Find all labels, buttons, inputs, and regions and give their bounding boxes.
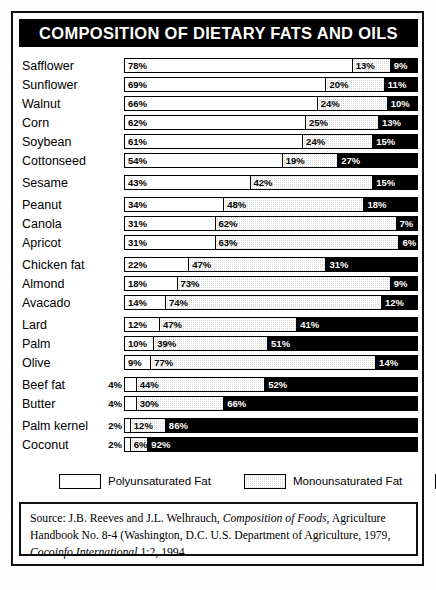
legend-swatch-mono (244, 474, 286, 489)
bar-segment-polyunsaturated: 10% (125, 337, 154, 350)
bar-segment-polyunsaturated: 61% (125, 135, 303, 148)
bar-segment-monounsaturated: 39% (154, 337, 268, 350)
stacked-bar: 61%24%15% (124, 134, 418, 149)
bar-segment-saturated: 10% (388, 97, 417, 110)
chart-row-label: Soybean (19, 135, 102, 149)
bar-segment-value: 12% (131, 421, 153, 431)
bar-segment-polyunsaturated: 34% (125, 198, 224, 211)
bar-segment-monounsaturated: 19% (283, 154, 338, 167)
bar-segment-polyunsaturated (125, 397, 137, 410)
chart-row: Peanut34%48%18% (19, 196, 418, 213)
chart-row-label: Cottonseed (19, 154, 102, 168)
chart-row: Coconut2%6%92% (19, 436, 418, 453)
bar-segment-value: 13% (379, 118, 401, 128)
chart-row: Apricot31%63%6% (19, 234, 418, 251)
bar-segment-value: 62% (216, 219, 238, 229)
chart-row-label: Olive (19, 356, 102, 370)
chart-row-label: Butter (19, 397, 102, 411)
bar-segment-value: 86% (166, 421, 188, 431)
chart-row-label: Palm kernel (19, 419, 102, 433)
bar-segment-value: 25% (306, 118, 328, 128)
chart-row: Sunflower69%20%11% (19, 76, 418, 93)
bar-segment-value: 51% (268, 339, 290, 349)
bar-segment-polyunsaturated: 31% (125, 217, 216, 230)
chart-row: Safflower78%13%9% (19, 57, 418, 74)
bar-segment-polyunsaturated (125, 378, 137, 391)
stacked-bar: 78%13%9% (124, 58, 418, 73)
bar-segment-saturated: 31% (326, 258, 417, 271)
stacked-bar: 34%48%18% (124, 197, 418, 212)
bar-segment-polyunsaturated: 18% (125, 277, 178, 290)
chart-row-label: Safflower (19, 59, 102, 73)
bar-segment-value: 47% (189, 260, 211, 270)
bar-segment-saturated: 27% (338, 154, 417, 167)
page-title: COMPOSITION OF DIETARY FATS AND OILS (39, 24, 398, 43)
bar-segment-value: 22% (125, 260, 147, 270)
bar-segment-value: 74% (166, 298, 188, 308)
chart-row: Corn62%25%13% (19, 114, 418, 131)
bar-segment-monounsaturated: 25% (306, 116, 379, 129)
bar-segment-value: 92% (148, 440, 170, 450)
chart-row: Butter4%30%66% (19, 395, 418, 412)
stacked-bar: 22%47%31% (124, 257, 418, 272)
bar-segment-monounsaturated: 73% (178, 277, 391, 290)
bar-segment-value: 15% (373, 178, 395, 188)
bar-segment-polyunsaturated: 12% (125, 318, 160, 331)
bar-segment-saturated: 9% (391, 277, 417, 290)
bar-segment-value: 12% (125, 320, 147, 330)
bar-segment-saturated: 52% (265, 378, 417, 391)
bar-segment-value: 20% (326, 80, 348, 90)
bar-segment-monounsaturated: 24% (318, 97, 388, 110)
bar-segment-value: 77% (151, 358, 173, 368)
bar-segment-value: 10% (388, 99, 410, 109)
bar-segment-saturated: 14% (376, 356, 417, 369)
bar-segment-polyunsaturated: 78% (125, 59, 353, 72)
bar-segment-monounsaturated: 24% (303, 135, 373, 148)
chart-row: Canola31%62%7% (19, 215, 418, 232)
bar-segment-monounsaturated: 77% (151, 356, 376, 369)
stacked-bar: 54%19%27% (124, 153, 418, 168)
bar-segment-value: 52% (265, 380, 287, 390)
bar-segment-value: 34% (125, 200, 147, 210)
bar-segment-value: 27% (338, 156, 360, 166)
bar-segment-monounsaturated: 47% (189, 258, 326, 271)
bar-segment-value: 39% (154, 339, 176, 349)
bar-segment-polyunsaturated: 22% (125, 258, 189, 271)
bar-segment-value: 30% (137, 399, 159, 409)
bar-segment-saturated: 6% (399, 236, 417, 249)
stacked-bar: 9%77%14% (124, 355, 418, 370)
bar-segment-value: 6% (131, 440, 148, 450)
stacked-bar: 30%66% (124, 396, 418, 411)
bar-segment-value: 61% (125, 137, 147, 147)
bar-segment-value: 18% (364, 200, 386, 210)
bar-segment-value: 41% (297, 320, 319, 330)
bar-segment-polyunsaturated: 9% (125, 356, 151, 369)
chart-row-outside-value: 2% (102, 420, 124, 431)
stacked-bar: 44%52% (124, 377, 418, 392)
stacked-bar: 12%86% (124, 418, 418, 433)
bar-segment-value: 78% (125, 61, 147, 71)
source-italic-title-1: Composition of Foods (223, 512, 327, 525)
source-note-text: Source: J.B. Reeves and J.L. Welhrauch, … (30, 511, 407, 562)
chart-legend: Polyunsaturated FatMonounsaturated FatSa… (19, 468, 418, 494)
bar-segment-value: 12% (382, 298, 404, 308)
bar-segment-polyunsaturated: 62% (125, 116, 306, 129)
chart-row-label: Apricot (19, 236, 102, 250)
bar-segment-value: 14% (125, 298, 147, 308)
bar-segment-value: 54% (125, 156, 147, 166)
bar-segment-value: 43% (125, 178, 147, 188)
chart-row-label: Palm (19, 337, 102, 351)
chart-row-label: Peanut (19, 198, 102, 212)
bar-segment-value: 15% (373, 137, 395, 147)
bar-segment-value: 9% (391, 61, 408, 71)
bar-segment-value: 11% (385, 80, 407, 90)
chart-row-outside-value: 2% (102, 439, 124, 450)
chart-row: Palm10%39%51% (19, 335, 418, 352)
bar-segment-value: 31% (125, 219, 147, 229)
bar-segment-value: 6% (399, 238, 416, 248)
bar-segment-saturated: 13% (379, 116, 417, 129)
bar-segment-monounsaturated: 30% (137, 397, 225, 410)
chart-row: Walnut66%24%10% (19, 95, 418, 112)
chart-row: Chicken fat22%47%31% (19, 256, 418, 273)
source-italic-title-2: Cocoinfo International (30, 546, 137, 559)
